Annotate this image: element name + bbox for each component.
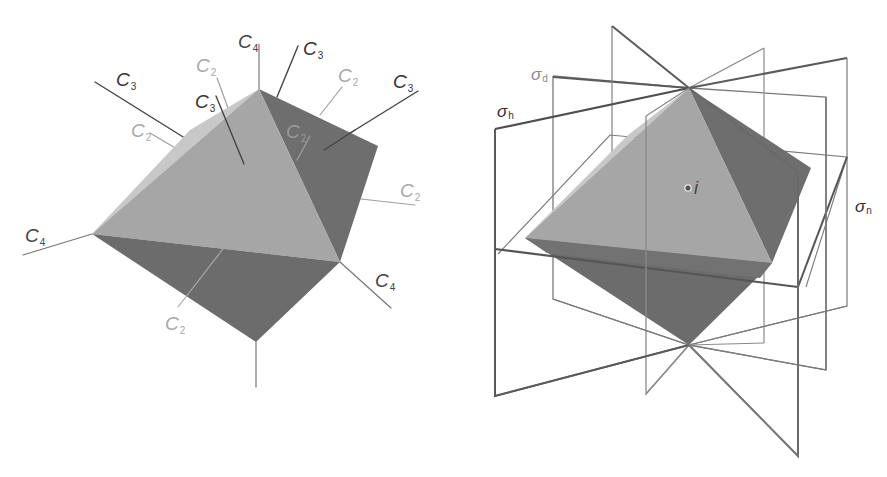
label-c2-top-left: C2 — [196, 55, 217, 78]
label-c4-top: C4 — [238, 31, 259, 54]
bottom-fan-5 — [495, 345, 689, 396]
c3-top-right-axis — [277, 46, 298, 97]
diag-plane-top-right-edge — [689, 48, 764, 88]
label-c2-bottom: C2 — [165, 313, 186, 336]
inversion-center-dot — [685, 185, 691, 191]
right-octahedron-diagram: i σd σh σn — [495, 26, 872, 456]
symmetry-diagram-canvas: C4 C3 C2 C2 C3 C3 C3 C2 C2 C2 C4 C4 C2 — [0, 0, 887, 477]
sigma-n-top-edge — [689, 58, 847, 88]
label-c4-left: C4 — [25, 225, 46, 248]
bottom-fan-7 — [689, 343, 764, 345]
left-octahedron-diagram: C4 C3 C2 C2 C3 C3 C3 C2 C2 C2 C4 C4 C2 — [23, 31, 421, 387]
label-c2-left: C2 — [131, 120, 152, 143]
label-sigma-n: σn — [855, 197, 872, 216]
label-c3-center: C3 — [195, 91, 216, 114]
bottom-fan-3 — [646, 345, 689, 394]
right-octahedron — [525, 88, 811, 345]
label-c3-top-right: C3 — [303, 38, 324, 61]
diag-plane-top-left-edge — [612, 26, 689, 88]
label-sigma-d: σd — [531, 65, 548, 84]
label-c3-left: C3 — [116, 69, 137, 92]
label-c2-top-right: C2 — [338, 65, 359, 88]
label-c4-right: C4 — [375, 270, 396, 293]
c2-top-right-axis — [320, 87, 342, 115]
label-c2-right: C2 — [400, 180, 421, 203]
sigma-d-top-edge — [553, 77, 689, 88]
label-c3-far-right: C3 — [393, 71, 414, 94]
label-sigma-h: σh — [497, 102, 514, 121]
